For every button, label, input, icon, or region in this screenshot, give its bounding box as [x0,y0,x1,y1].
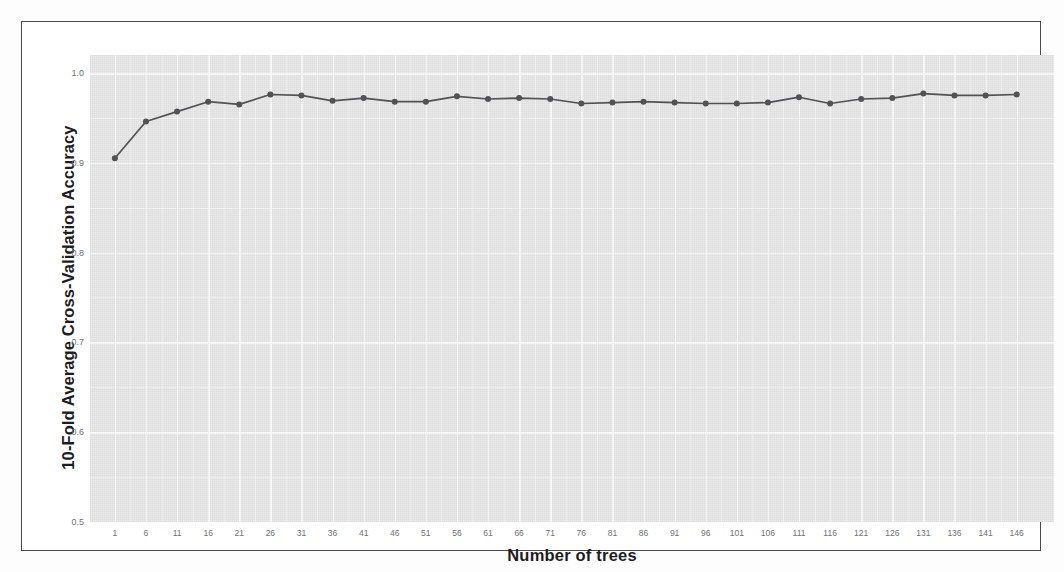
y-tick-label: 0.7 [52,337,84,347]
y-tick-label: 0.5 [52,517,84,527]
y-tick-label: 0.9 [52,158,84,168]
data-point [1014,92,1020,98]
data-point [672,100,678,106]
data-point [112,155,118,161]
data-point [267,92,273,98]
data-point [392,99,398,105]
data-point [920,91,926,97]
data-point [298,92,304,98]
data-point [454,93,460,99]
data-point [951,92,957,98]
y-tick-label: 0.6 [52,427,84,437]
data-point [547,96,553,102]
series-line [115,94,1017,159]
data-point [703,101,709,107]
data-point [485,96,491,102]
data-point [516,95,522,101]
data-point [609,100,615,106]
data-point [765,100,771,106]
data-point [734,101,740,107]
y-axis-title: 10-Fold Average Cross-Validation Accurac… [59,63,78,533]
data-point [330,98,336,104]
figure: 10-Fold Average Cross-Validation Accurac… [0,0,1064,572]
data-series [90,55,1054,522]
data-point [858,96,864,102]
data-point [889,95,895,101]
figure-frame: 10-Fold Average Cross-Validation Accurac… [21,21,1041,551]
data-point [236,101,242,107]
data-point [578,101,584,107]
data-point [796,94,802,100]
data-point [143,118,149,124]
plot-panel [90,55,1054,522]
data-point [423,99,429,105]
data-point [641,99,647,105]
data-point [174,109,180,115]
y-tick-label: 0.8 [52,248,84,258]
data-point [361,95,367,101]
x-tick-label: 146 [997,528,1037,538]
x-axis-title: Number of trees [90,546,1054,565]
data-point [983,92,989,98]
data-point [205,99,211,105]
y-tick-label: 1.0 [52,68,84,78]
data-point [827,101,833,107]
